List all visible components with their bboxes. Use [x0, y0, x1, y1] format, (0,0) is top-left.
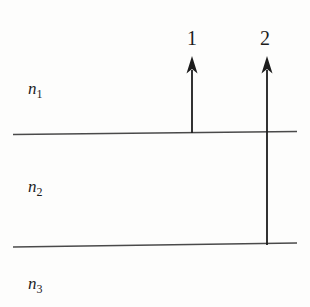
medium-symbol-n2: n	[28, 177, 37, 196]
ray-1-label: 1	[187, 27, 197, 49]
interface-line-n1-n2	[13, 132, 297, 135]
diagram-canvas: 1 2 n1 n2 n3	[0, 0, 310, 307]
medium-label-n1: n1	[28, 79, 43, 101]
medium-subscript-n2: 2	[37, 185, 43, 199]
interface-line-n2-n3	[13, 243, 297, 247]
ray-2-label: 2	[260, 27, 270, 49]
medium-label-n2: n2	[28, 177, 43, 199]
medium-subscript-n3: 3	[37, 282, 43, 296]
medium-label-n3: n3	[28, 274, 43, 296]
medium-symbol-n3: n	[28, 274, 37, 293]
medium-subscript-n1: 1	[37, 87, 43, 101]
medium-symbol-n1: n	[28, 79, 37, 98]
layered-media-diagram: 1 2 n1 n2 n3	[0, 0, 310, 307]
